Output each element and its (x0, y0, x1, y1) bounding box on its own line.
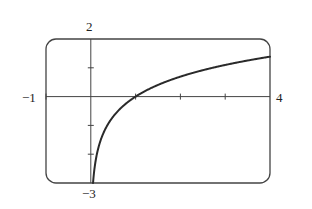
window-frame (46, 39, 270, 183)
ymax-label: 2 (86, 20, 93, 33)
ymin-label: −3 (82, 187, 96, 200)
xmax-label: 4 (276, 91, 283, 104)
function-curve (93, 57, 270, 183)
plot-area (0, 0, 312, 209)
xmin-label: −1 (22, 91, 36, 104)
